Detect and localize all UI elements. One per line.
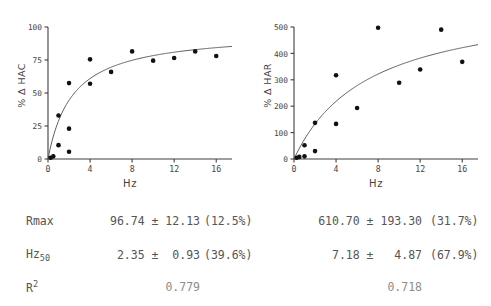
panel-har: 01002003004005000481216 % Δ HAR Hz [246, 0, 491, 200]
scatter-plot-hac: 02550751000481216 [0, 0, 245, 200]
row-label-hz50-base: Hz [26, 247, 40, 261]
x-axis-label-har: Hz [306, 178, 446, 189]
svg-text:8: 8 [130, 164, 135, 174]
svg-text:100: 100 [274, 129, 288, 138]
fit-parameters-table: Rmax 96.74 ± 12.13 (12.5%) 610.70 ± 193.… [0, 202, 491, 306]
figure-container: 02550751000481216 % Δ HAC Hz 01002003004… [0, 0, 491, 306]
rmax-value-hac: 96.74 ± 12.13 [72, 214, 200, 228]
x-axis-label-hac: Hz [60, 178, 200, 189]
svg-text:25: 25 [33, 122, 43, 131]
y-axis-label-hac: % Δ HAC [16, 56, 27, 116]
row-label-r2-superscript: 2 [33, 279, 38, 289]
y-axis-label-har: % Δ HAR [262, 56, 273, 116]
table-row-r2: R2 0.779 0.718 [0, 272, 491, 302]
svg-text:0: 0 [283, 155, 288, 164]
svg-text:0: 0 [292, 164, 297, 174]
svg-text:0: 0 [46, 164, 51, 174]
svg-text:200: 200 [274, 102, 288, 111]
scatter-plot-har: 01002003004005000481216 [246, 0, 491, 200]
svg-text:16: 16 [211, 164, 221, 174]
r2-value-hac: 0.779 [72, 280, 200, 294]
rmax-cv-har: (31.7%) [430, 214, 491, 228]
rmax-value-har: 610.70 ± 193.30 [272, 214, 422, 228]
svg-text:50: 50 [33, 89, 43, 98]
svg-text:500: 500 [274, 23, 288, 32]
row-label-r2-base: R [26, 281, 33, 295]
svg-text:100: 100 [28, 23, 42, 32]
svg-text:12: 12 [169, 164, 179, 174]
svg-text:4: 4 [334, 164, 339, 174]
table-row-rmax: Rmax 96.74 ± 12.13 (12.5%) 610.70 ± 193.… [0, 206, 491, 236]
hz50-value-har: 7.18 ± 4.87 [272, 248, 422, 262]
row-label-hz50-subscript: 50 [40, 253, 50, 263]
rmax-cv-hac: (12.5%) [204, 214, 264, 228]
svg-text:300: 300 [274, 76, 288, 85]
svg-text:4: 4 [88, 164, 93, 174]
hz50-cv-hac: (39.6%) [204, 248, 264, 262]
svg-text:16: 16 [457, 164, 467, 174]
svg-text:12: 12 [415, 164, 425, 174]
svg-text:400: 400 [274, 50, 288, 59]
table-row-hz50: Hz50 2.35 ± 0.93 (39.6%) 7.18 ± 4.87 (67… [0, 240, 491, 270]
panel-hac: 02550751000481216 % Δ HAC Hz [0, 0, 245, 200]
hz50-cv-har: (67.9%) [430, 248, 491, 262]
svg-text:8: 8 [376, 164, 381, 174]
svg-text:0: 0 [37, 155, 42, 164]
r2-value-har: 0.718 [272, 280, 422, 294]
hz50-value-hac: 2.35 ± 0.93 [72, 248, 200, 262]
svg-text:75: 75 [33, 56, 43, 65]
